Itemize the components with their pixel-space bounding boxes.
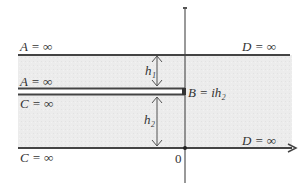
label-slit-tip: B = ih₂: [188, 85, 226, 100]
label-bottom-right: D = ∞: [241, 133, 276, 148]
label-slit-upper-left: A = ∞: [19, 74, 52, 89]
slit-gap: [18, 89, 185, 94]
diagram-canvas: A = ∞ D = ∞ A = ∞ C = ∞ C = ∞ D = ∞ B = …: [0, 0, 307, 183]
label-slit-lower-left: C = ∞: [20, 96, 53, 111]
label-top-right: D = ∞: [241, 39, 276, 54]
label-origin: 0: [175, 151, 182, 166]
axis-top-tick: [183, 7, 187, 9]
slit-tip-marker: [182, 88, 186, 95]
label-top-left: A = ∞: [19, 39, 52, 54]
diagram: A = ∞ D = ∞ A = ∞ C = ∞ C = ∞ D = ∞ B = …: [0, 0, 307, 183]
origin-point: [183, 146, 187, 150]
label-h2: h₂: [144, 112, 156, 127]
label-bottom-left: C = ∞: [20, 150, 53, 165]
label-h1: h₁: [145, 63, 156, 78]
